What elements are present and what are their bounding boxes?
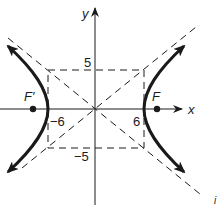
focus-left-point	[30, 106, 36, 112]
tick-label-x-negative: −6	[50, 114, 65, 129]
corner-mark: i	[214, 195, 217, 205]
asymptote-positive	[22, 27, 196, 168]
tick-label-y-positive: 5	[84, 55, 91, 70]
hyperbola-right-branch-lower	[144, 109, 184, 172]
hyperbola-right-branch-upper	[144, 46, 184, 109]
tick-label-y-negative: −5	[74, 149, 89, 164]
focus-right-point	[154, 106, 160, 112]
focus-left-label: F′	[24, 89, 35, 104]
focus-right-label: F	[152, 89, 161, 104]
hyperbola-diagram: y x 5 −5 6 −6 F F′ i	[0, 0, 222, 205]
y-axis-label: y	[81, 6, 90, 21]
asymptote-negative	[8, 38, 200, 194]
tick-label-x-positive: 6	[133, 114, 140, 129]
hyperbola-left-branch-lower	[8, 109, 48, 172]
x-axis-label: x	[187, 102, 195, 117]
